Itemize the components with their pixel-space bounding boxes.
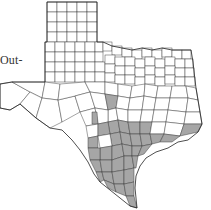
panhandle-grid [45, 2, 105, 82]
north-central-counties [103, 42, 195, 86]
texas-county-map [0, 0, 211, 210]
south-texas-shaded-counties [86, 120, 202, 208]
